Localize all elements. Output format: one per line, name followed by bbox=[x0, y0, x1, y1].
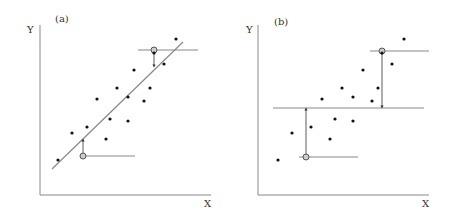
data-point bbox=[276, 158, 279, 161]
panel-label: (b) bbox=[274, 16, 288, 27]
data-point bbox=[380, 51, 383, 54]
data-point bbox=[152, 51, 155, 54]
data-point bbox=[56, 158, 59, 161]
data-point bbox=[70, 131, 73, 134]
data-point bbox=[340, 86, 343, 89]
data-point bbox=[290, 131, 293, 134]
plot-content bbox=[273, 37, 429, 161]
data-point bbox=[115, 86, 118, 89]
data-point bbox=[351, 119, 354, 122]
x-axis-label: X bbox=[422, 198, 430, 209]
data-point bbox=[126, 119, 129, 122]
data-point bbox=[309, 125, 312, 128]
highlight-point bbox=[80, 153, 86, 159]
highlight-point bbox=[303, 154, 309, 160]
data-point bbox=[333, 117, 336, 120]
data-point bbox=[126, 95, 129, 98]
data-point bbox=[320, 97, 323, 100]
x-axis-label: X bbox=[204, 198, 212, 209]
data-point bbox=[328, 137, 331, 140]
y-axis-label: Y bbox=[26, 24, 34, 35]
regression-diagram: (a) Y X (b) Y X bbox=[0, 0, 452, 223]
data-point bbox=[85, 125, 88, 128]
data-point bbox=[402, 37, 405, 40]
data-point bbox=[162, 62, 165, 65]
plot-content bbox=[52, 37, 198, 169]
data-point bbox=[148, 86, 151, 89]
panel-b: (b) Y X bbox=[245, 16, 430, 209]
data-point bbox=[174, 37, 177, 40]
data-point bbox=[108, 117, 111, 120]
data-point bbox=[376, 86, 379, 89]
data-point bbox=[370, 99, 373, 102]
regression-line bbox=[52, 42, 183, 169]
data-point bbox=[132, 68, 135, 71]
y-axis-label: Y bbox=[245, 24, 253, 35]
data-point bbox=[390, 62, 393, 65]
data-point bbox=[361, 68, 364, 71]
panel-a: (a) Y X bbox=[26, 13, 212, 209]
panel-label: (a) bbox=[55, 13, 69, 24]
data-point bbox=[142, 99, 145, 102]
data-point bbox=[104, 137, 107, 140]
data-point bbox=[95, 97, 98, 100]
data-point bbox=[351, 95, 354, 98]
